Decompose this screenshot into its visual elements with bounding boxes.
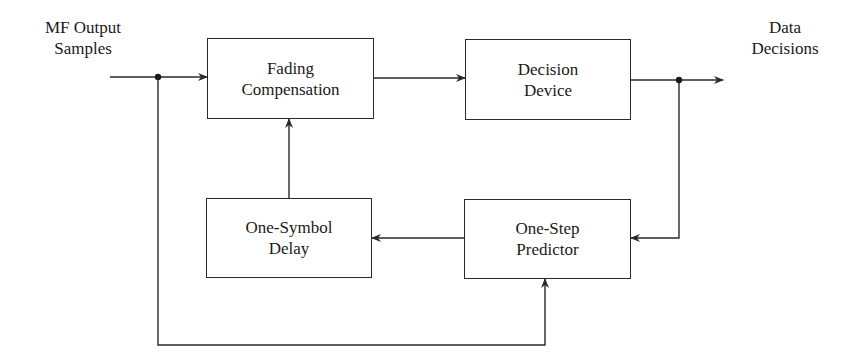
one-symbol-delay-block: One-Symbol Delay bbox=[206, 198, 372, 278]
block-diagram: MF Output Samples Data Decisions Fading … bbox=[0, 0, 842, 364]
fading-compensation-block: Fading Compensation bbox=[207, 38, 374, 119]
predictor-block-line1: One-Step bbox=[515, 218, 579, 239]
input-label: MF Output Samples bbox=[28, 17, 138, 59]
fading-block-line2: Compensation bbox=[241, 79, 339, 100]
one-step-predictor-block: One-Step Predictor bbox=[464, 199, 631, 279]
input-junction-dot bbox=[155, 74, 161, 80]
predictor-block-line2: Predictor bbox=[516, 239, 578, 260]
decision-to-predictor-arrow bbox=[631, 80, 679, 238]
decision-block-line2: Device bbox=[524, 80, 572, 101]
input-label-line1: MF Output bbox=[28, 17, 138, 38]
decision-block-line1: Decision bbox=[518, 59, 578, 80]
output-junction-dot bbox=[676, 77, 682, 83]
output-label-line1: Data bbox=[730, 17, 840, 38]
output-label-line2: Decisions bbox=[730, 38, 840, 59]
input-label-line2: Samples bbox=[28, 38, 138, 59]
decision-device-block: Decision Device bbox=[465, 39, 631, 120]
fading-block-line1: Fading bbox=[267, 58, 314, 79]
delay-block-line2: Delay bbox=[269, 238, 310, 259]
delay-block-line1: One-Symbol bbox=[246, 217, 333, 238]
output-label: Data Decisions bbox=[730, 17, 840, 59]
